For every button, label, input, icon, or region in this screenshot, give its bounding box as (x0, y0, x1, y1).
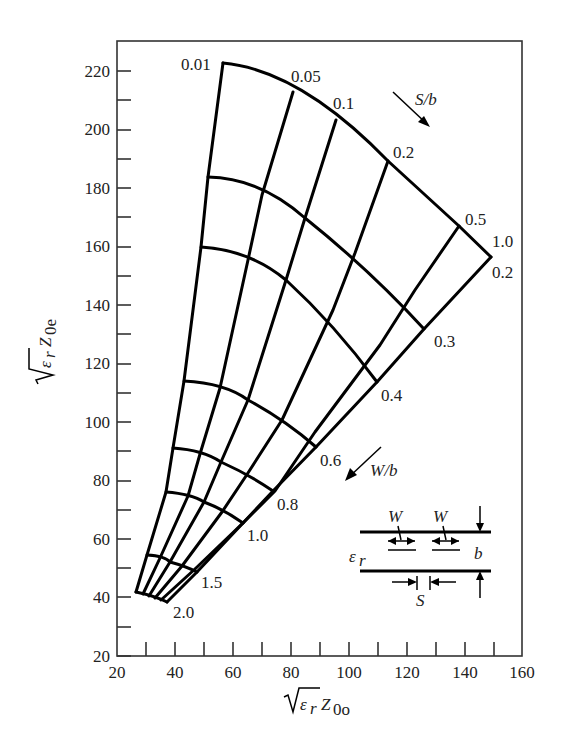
svg-text:160: 160 (509, 663, 535, 682)
w-over-b-direction-arrow: W/b (345, 447, 397, 481)
x-tick-labels: 20 40 60 80 100 120 140 160 (109, 663, 535, 682)
s-over-b-direction-arrow: S/b (393, 90, 437, 127)
svg-text:140: 140 (85, 296, 111, 315)
svg-text:200: 200 (85, 120, 111, 139)
svg-text:ε: ε (349, 547, 356, 566)
svg-text:80: 80 (283, 663, 300, 682)
svg-text:0.01: 0.01 (181, 55, 211, 74)
s-over-b-labels: 0.01 0.05 0.1 0.2 0.5 1.0 (181, 55, 513, 251)
svg-text:80: 80 (93, 471, 110, 490)
svg-text:100: 100 (85, 413, 111, 432)
svg-text:W: W (433, 507, 449, 526)
svg-text:W: W (388, 507, 404, 526)
svg-text:r: r (359, 551, 366, 570)
w-over-b-labels: 0.2 0.3 0.4 0.6 0.8 1.0 1.5 2.0 (173, 263, 513, 622)
svg-text:180: 180 (85, 179, 111, 198)
svg-text:W/b: W/b (370, 461, 397, 480)
coupled-stripline-design-chart: 20 40 60 80 100 120 140 160 180 200 220 … (0, 0, 563, 743)
svg-text:1.0: 1.0 (247, 526, 268, 545)
svg-text:0.8: 0.8 (277, 495, 298, 514)
svg-text:0.1: 0.1 (333, 94, 354, 113)
svg-text:60: 60 (225, 663, 242, 682)
svg-text:ε: ε (300, 695, 307, 714)
svg-text:Z: Z (36, 337, 55, 347)
x-axis-ticks (146, 642, 494, 656)
svg-text:ε: ε (36, 361, 55, 368)
svg-text:b: b (474, 544, 483, 563)
svg-text:r: r (310, 699, 317, 718)
svg-text:140: 140 (452, 663, 478, 682)
svg-text:0.2: 0.2 (393, 143, 414, 162)
svg-text:S: S (416, 591, 425, 610)
svg-text:100: 100 (336, 663, 362, 682)
curve-s-0.5 (161, 226, 459, 600)
svg-text:120: 120 (85, 354, 111, 373)
svg-text:1.5: 1.5 (201, 573, 222, 592)
svg-text:0.3: 0.3 (434, 332, 455, 351)
svg-text:40: 40 (93, 588, 110, 607)
svg-text:0.05: 0.05 (291, 67, 321, 86)
svg-text:20: 20 (109, 663, 126, 682)
svg-text:220: 220 (85, 62, 111, 81)
svg-text:0.5: 0.5 (465, 210, 486, 229)
svg-text:S/b: S/b (415, 90, 437, 109)
svg-text:0.4: 0.4 (381, 386, 403, 405)
svg-text:40: 40 (167, 663, 184, 682)
svg-text:0o: 0o (333, 700, 350, 719)
svg-text:2.0: 2.0 (173, 603, 194, 622)
x-axis-label: ε r Z 0o (284, 688, 350, 719)
svg-text:160: 160 (85, 237, 111, 256)
svg-text:0e: 0e (41, 319, 60, 335)
svg-text:60: 60 (93, 530, 110, 549)
y-axis-ticks (117, 71, 131, 656)
y-axis-label: ε r Z 0e (29, 319, 60, 384)
svg-text:1.0: 1.0 (492, 232, 513, 251)
svg-text:Z: Z (321, 695, 331, 714)
svg-text:20: 20 (93, 647, 110, 666)
curve-w-0.2 (223, 63, 491, 257)
y-tick-labels: 20 40 60 80 100 120 140 160 180 200 220 (85, 62, 111, 666)
svg-text:120: 120 (394, 663, 420, 682)
svg-text:0.6: 0.6 (320, 451, 341, 470)
stripline-cross-section-inset: W W b ε r S (349, 506, 491, 610)
svg-text:r: r (40, 351, 59, 358)
svg-text:0.2: 0.2 (492, 263, 513, 282)
